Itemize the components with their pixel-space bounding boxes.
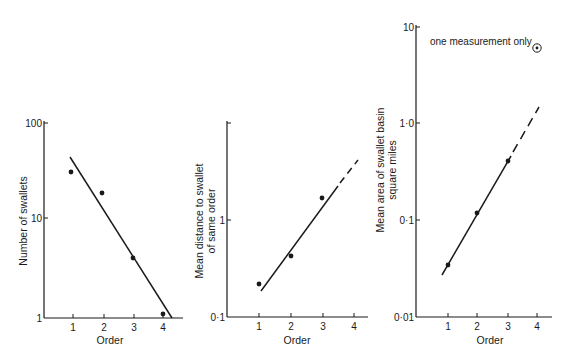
x-axis-title: Order [477,334,504,346]
data-point [161,312,166,317]
y-axis-title-line1: Mean distance to swallet [193,163,205,278]
y-tick-label: 10 [403,22,415,33]
x-tick-label: 4 [351,321,357,332]
fit-line-solid [442,156,511,275]
x-tick-label: 2 [288,321,294,332]
data-point [100,191,105,196]
data-point [69,170,74,175]
x-tick-label: 2 [474,321,480,332]
circled-dot-marker [533,44,541,52]
fit-line [70,157,172,318]
x-tick-label: 1 [70,322,76,333]
fit-line-solid [261,186,338,291]
y-tick-label: 100 [25,118,42,129]
y-axis-title: Number of swallets [17,176,29,265]
x-axis-title: Order [97,334,124,346]
chart-number-of-swallets: 100 10 1 1 2 3 4 Order Number of swallet… [17,118,183,346]
y-tick-label: 0·1 [211,312,226,323]
x-tick-label: 3 [320,321,326,332]
y-axis-title-line1: Mean area of swallet basin [374,107,386,232]
data-point [257,282,262,287]
data-point [131,256,136,261]
fit-line-dashed [340,160,358,183]
fit-line-dashed [513,107,539,152]
x-tick-label: 1 [445,321,451,332]
figure: 100 10 1 1 2 3 4 Order Number of swallet… [0,0,570,362]
y-tick-label: 0·01 [394,312,414,323]
annotation-one-measurement: one measurement only [430,36,532,47]
x-tick-label: 4 [534,321,540,332]
x-tick-label: 4 [160,322,166,333]
chart-mean-distance: 1 0·1 1 2 3 4 Order Mean distance to swa… [193,121,368,346]
data-point [289,254,294,259]
x-axis-title: Order [284,334,311,346]
y-axis-title-line2: of same order [205,188,217,253]
y-tick-label: 1 [36,313,42,324]
x-tick-label: 3 [505,321,511,332]
y-tick-label: 0·1 [400,215,415,226]
x-tick-label: 1 [256,321,262,332]
x-tick-label: 3 [131,322,137,333]
chart-mean-area: 10 1·0 0·1 0·01 1 2 3 4 Order Mean area … [374,22,552,346]
y-tick-label: 10 [31,213,43,224]
x-tick-label: 2 [101,322,107,333]
y-tick-label: 1·0 [400,118,415,129]
data-point [320,196,325,201]
data-point [475,211,480,216]
data-point [506,159,511,164]
y-axis-title-line2: square miles [386,140,398,200]
data-point [446,263,451,268]
y-tick-label: 1 [219,215,225,226]
